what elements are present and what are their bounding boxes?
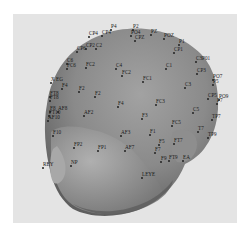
electrode-label: PZ	[151, 29, 157, 34]
electrode-marker	[83, 115, 85, 117]
electrode-marker	[88, 36, 90, 38]
electrode-label: AF10	[48, 115, 60, 120]
electrode-label: C2	[96, 43, 102, 48]
electrode-label: C4	[116, 63, 122, 68]
electrode-marker	[124, 150, 126, 152]
electrode-label: FP1	[98, 145, 106, 150]
electrode-marker	[173, 52, 175, 54]
electrode-marker	[154, 152, 156, 154]
electrode-label: FC6	[67, 63, 76, 68]
electrode-marker	[195, 61, 197, 63]
electrode-label: TP9	[208, 132, 217, 137]
electrode-label: AF7	[125, 145, 134, 150]
electrode-label: CPZ	[135, 35, 145, 40]
electrode-label: P4	[111, 24, 116, 29]
electrode-marker	[85, 67, 87, 69]
electrode-label: F2	[95, 91, 100, 96]
electrode-marker	[149, 134, 151, 136]
electrode-label: F4	[62, 83, 67, 88]
electrode-marker	[78, 91, 80, 93]
electrode-label: FC3	[156, 99, 165, 104]
electrode-marker	[150, 34, 152, 36]
electrode-marker	[94, 96, 96, 98]
electrode-label: CP3	[197, 68, 206, 73]
electrode-marker	[121, 75, 123, 77]
electrode-marker	[163, 38, 165, 40]
electrode-label: F2	[79, 86, 84, 91]
electrode-marker	[49, 100, 51, 102]
electrode-marker	[134, 40, 136, 42]
electrode-marker	[196, 73, 198, 75]
electrode-label: C3P01	[196, 56, 210, 61]
electrode-label: F5	[159, 139, 164, 144]
electrode-label: FC1	[143, 76, 152, 81]
electrode-marker	[70, 165, 72, 167]
electrode-label: F1	[150, 129, 155, 134]
electrode-marker	[211, 119, 213, 121]
electrode-label: CP4	[89, 31, 98, 36]
electrode-marker	[165, 68, 167, 70]
electrode-label: F3	[142, 113, 147, 118]
electrode-label: NP	[71, 160, 78, 165]
electrode-marker	[155, 104, 157, 106]
electrode-marker	[182, 160, 184, 162]
electrode-label: F4	[118, 101, 123, 106]
electrode-marker	[212, 84, 214, 86]
electrode-marker	[52, 135, 54, 137]
electrode-marker	[141, 118, 143, 120]
electrode-marker	[115, 68, 117, 70]
electrode-marker	[95, 48, 97, 50]
electrode-label: CP5	[208, 93, 217, 98]
electrode-label: C3	[185, 82, 191, 87]
electrode-label: FC2	[122, 70, 131, 75]
electrode-label: CP4	[102, 30, 111, 35]
electrode-label: EA	[183, 155, 190, 160]
figure-panel: P4CP4CP4P2PO4CPZPZPOZP1CP1CP2CP6C2C6FC6F…	[13, 14, 237, 223]
electrode-marker	[117, 106, 119, 108]
electrode-marker	[42, 167, 44, 169]
electrode-label: T7	[198, 126, 204, 131]
electrode-marker	[47, 120, 49, 122]
electrode-label: FC5	[172, 120, 181, 125]
electrode-marker	[101, 35, 103, 37]
electrode-label: TP7	[212, 114, 221, 119]
electrode-label: CP6	[77, 46, 86, 51]
electrode-label: F10	[53, 130, 61, 135]
electrode-marker	[192, 112, 194, 114]
electrode-label: F7	[155, 147, 160, 152]
electrode-marker	[130, 35, 132, 37]
electrode-label: AF3	[121, 130, 130, 135]
electrode-label: P7	[217, 98, 222, 103]
electrode-marker	[120, 135, 122, 137]
electrode-label: C5	[193, 107, 199, 112]
electrode-marker	[142, 81, 144, 83]
electrode-marker	[76, 51, 78, 53]
electrode-marker	[171, 125, 173, 127]
electrode-marker	[168, 160, 170, 162]
electrode-label: FT7	[174, 138, 183, 143]
electrode-label: LEYE	[142, 172, 155, 177]
electrode-label: AF2	[84, 110, 93, 115]
head-model	[13, 14, 237, 223]
electrode-label: P5	[213, 79, 218, 84]
electrode-marker	[197, 131, 199, 133]
electrode-marker	[66, 68, 68, 70]
electrode-marker	[141, 177, 143, 179]
electrode-label: CP1	[174, 47, 183, 52]
electrode-marker	[61, 88, 63, 90]
electrode-marker	[216, 103, 218, 105]
electrode-label: FC2	[86, 62, 95, 67]
electrode-marker	[50, 82, 52, 84]
electrode-label: POZ	[164, 33, 174, 38]
electrode-marker	[173, 143, 175, 145]
electrode-marker	[160, 161, 162, 163]
electrode-label: FT9	[169, 155, 178, 160]
electrode-marker	[184, 87, 186, 89]
electrode-label: CP2	[86, 43, 95, 48]
electrode-marker	[207, 98, 209, 100]
electrode-marker	[207, 137, 209, 139]
electrode-label: FP2	[74, 142, 82, 147]
electrode-label: F9	[161, 156, 166, 161]
electrode-label: REY	[43, 162, 53, 167]
electrode-label: P1	[179, 39, 184, 44]
